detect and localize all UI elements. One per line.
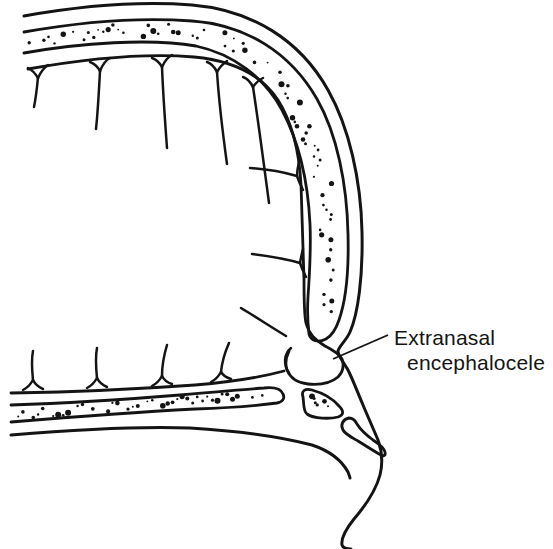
skull-base-stipple: [17, 392, 263, 419]
stipple-dot: [136, 404, 140, 408]
annotation: Extranasal encephalocele: [333, 326, 545, 374]
stipple-dot: [55, 412, 61, 418]
stipple-dot: [62, 414, 65, 417]
stipple-dot: [32, 416, 36, 420]
stipple-dot: [81, 403, 84, 406]
stipple-dot: [325, 209, 328, 212]
stipple-dot: [316, 403, 319, 406]
stipple-dot: [304, 142, 307, 145]
stipple-dot: [201, 400, 204, 403]
sulci-floor: [23, 343, 231, 390]
stipple-dot: [65, 410, 71, 416]
stipple-dot: [111, 402, 113, 404]
stipple-dot: [97, 29, 99, 31]
stipple-dot: [106, 27, 111, 32]
septal-cartilage: [342, 418, 385, 456]
stipple-dot: [317, 165, 319, 167]
stipple-dot: [322, 204, 325, 207]
stipple-dot: [313, 155, 315, 157]
stipple-dot: [327, 405, 329, 407]
stipple-dot: [122, 32, 125, 35]
stipple-dot: [222, 30, 227, 35]
stipple-dot: [21, 410, 25, 414]
stipple-dot: [330, 213, 333, 216]
stipple-dot: [106, 409, 110, 413]
stipple-dot: [230, 397, 235, 402]
stipple-dot: [284, 93, 286, 95]
stipple-dot: [42, 39, 45, 42]
sulci-top: [28, 55, 269, 203]
stipple-dot: [157, 33, 160, 36]
stipple-dot: [314, 145, 316, 147]
stipple-dot: [221, 393, 224, 396]
stipple-dot: [329, 248, 332, 251]
stipple-dot: [150, 28, 156, 34]
stipple-dot: [147, 401, 149, 403]
calvaria: [24, 4, 382, 549]
stipple-dot: [196, 37, 199, 40]
stipple-dot: [295, 124, 300, 129]
stipple-dot: [91, 407, 95, 411]
stipple-dot: [76, 405, 78, 407]
stipple-dot: [41, 407, 45, 411]
stipple-dot: [166, 401, 170, 405]
stipple-dot: [322, 293, 325, 296]
stipple-dot: [261, 394, 264, 397]
stipple-dot: [317, 149, 320, 152]
stipple-dot: [232, 49, 235, 52]
stipple-dot: [17, 415, 19, 417]
stipple-dot: [319, 232, 324, 237]
brain: [11, 55, 343, 393]
stipple-dot: [242, 48, 247, 53]
stipple-dot: [286, 84, 290, 88]
stipple-dot: [72, 31, 74, 33]
diploe-stipple: [28, 23, 335, 314]
stipple-dot: [151, 399, 154, 402]
stipple-dot: [224, 45, 227, 48]
stipple-dot: [319, 229, 322, 232]
stipple-dot: [319, 159, 322, 162]
label-extranasal: Extranasal: [394, 326, 495, 349]
stipple-dot: [28, 41, 31, 44]
stipple-dot: [328, 237, 333, 242]
stipple-dot: [211, 399, 214, 402]
stipple-dot: [329, 278, 333, 282]
stipple-dot: [192, 35, 194, 37]
nasal-cavity-roof: [11, 427, 350, 478]
nasal-bone: [302, 389, 342, 418]
label-encephalocele: encephalocele: [407, 351, 545, 374]
stipple-dot: [111, 23, 115, 27]
stipple-dot: [102, 31, 104, 33]
stipple-dot: [242, 42, 245, 45]
stipple-dot: [171, 30, 176, 35]
stipple-dot: [251, 396, 254, 399]
stipple-dot: [191, 402, 194, 405]
stipple-dot: [307, 124, 312, 129]
stipple-dot: [176, 398, 178, 400]
stipple-dot: [215, 398, 221, 404]
stipple-dot: [147, 24, 151, 28]
stipple-dot: [160, 403, 166, 409]
stipple-dot: [322, 399, 327, 404]
stipple-dot: [330, 310, 333, 313]
stipple-dot: [297, 100, 303, 106]
stipple-dot: [206, 396, 208, 398]
stipple-dot: [313, 176, 315, 178]
stipple-dot: [176, 30, 181, 35]
stipple-dot: [233, 38, 235, 40]
stipple-dot: [180, 394, 185, 399]
stipple-dot: [294, 121, 297, 124]
stipple-dot: [53, 42, 55, 44]
calvaria-outer-table: [24, 4, 382, 549]
stipple-dot: [115, 401, 120, 406]
stipple-dot: [225, 392, 229, 396]
stipple-dot: [52, 415, 54, 417]
stipple-dot: [313, 397, 316, 400]
stipple-dot: [329, 298, 334, 303]
stipple-dot: [235, 394, 240, 399]
figure-canvas: Extranasal encephalocele: [0, 0, 553, 549]
stipple-dot: [301, 137, 306, 142]
stipple-dot: [196, 396, 199, 399]
stipple-dot: [329, 218, 332, 221]
stipple-dot: [203, 29, 206, 32]
